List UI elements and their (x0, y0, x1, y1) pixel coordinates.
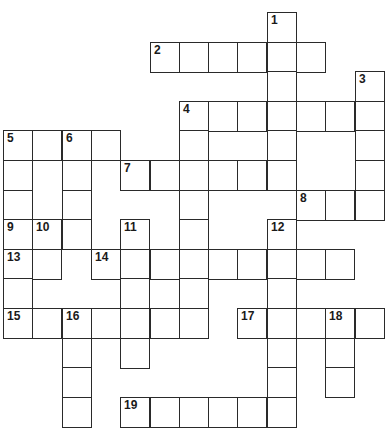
crossword-cell[interactable] (179, 219, 209, 250)
crossword-cell[interactable] (208, 249, 238, 280)
crossword-cell[interactable] (325, 338, 355, 369)
clue-number: 18 (329, 310, 342, 323)
crossword-cell-4[interactable]: 4 (179, 101, 209, 132)
crossword-cell-15[interactable]: 15 (3, 308, 33, 339)
crossword-cell[interactable] (120, 278, 150, 309)
crossword-cell[interactable] (325, 249, 355, 280)
crossword-cell-2[interactable]: 2 (150, 42, 180, 73)
crossword-cell[interactable] (32, 249, 62, 280)
crossword-cell[interactable] (62, 338, 92, 369)
clue-number: 7 (124, 162, 131, 175)
crossword-cell-9[interactable]: 9 (3, 219, 33, 250)
crossword-cell[interactable] (150, 249, 180, 280)
crossword-cell-5[interactable]: 5 (3, 130, 33, 161)
clue-number: 14 (95, 251, 108, 264)
crossword-cell[interactable] (355, 160, 385, 191)
crossword-cell-14[interactable]: 14 (91, 249, 121, 280)
clue-number: 4 (183, 103, 190, 116)
crossword-cell[interactable] (120, 338, 150, 369)
crossword-cell[interactable] (237, 101, 267, 132)
crossword-cell[interactable] (32, 130, 62, 161)
crossword-cell-19[interactable]: 19 (120, 397, 150, 428)
clue-number: 1 (271, 14, 278, 27)
crossword-cell[interactable] (237, 397, 267, 428)
crossword-cell-6[interactable]: 6 (62, 130, 92, 161)
clue-number: 6 (66, 132, 73, 145)
crossword-cell-8[interactable]: 8 (296, 190, 326, 221)
crossword-cell[interactable] (62, 219, 92, 250)
clue-number: 16 (66, 310, 79, 323)
crossword-cell[interactable] (62, 367, 92, 398)
crossword-cell[interactable] (237, 249, 267, 280)
crossword-cell[interactable] (91, 130, 121, 161)
crossword-cell[interactable] (3, 278, 33, 309)
clue-number: 13 (7, 251, 20, 264)
crossword-cell-11[interactable]: 11 (120, 219, 150, 250)
crossword-cell[interactable] (237, 42, 267, 73)
crossword-cell[interactable] (91, 308, 121, 339)
clue-number: 2 (154, 44, 161, 57)
crossword-cell[interactable] (179, 160, 209, 191)
crossword-cell[interactable] (296, 42, 326, 73)
crossword-cell[interactable] (62, 190, 92, 221)
clue-number: 9 (7, 221, 14, 234)
crossword-cell[interactable] (208, 160, 238, 191)
crossword-cell[interactable] (62, 397, 92, 428)
crossword-cell[interactable] (355, 130, 385, 161)
crossword-cell[interactable] (179, 130, 209, 161)
crossword-cell[interactable] (208, 397, 238, 428)
crossword-cell-17[interactable]: 17 (237, 308, 267, 339)
crossword-cell[interactable] (150, 160, 180, 191)
crossword-cell[interactable] (325, 367, 355, 398)
crossword-cell[interactable] (355, 190, 385, 221)
crossword-cell[interactable] (150, 397, 180, 428)
crossword-cell[interactable] (3, 160, 33, 191)
crossword-cell[interactable] (267, 71, 297, 102)
crossword-cell[interactable] (296, 101, 326, 132)
clue-number: 19 (124, 399, 137, 412)
crossword-cell[interactable] (208, 42, 238, 73)
crossword-cell[interactable] (179, 42, 209, 73)
crossword-cell[interactable] (355, 101, 385, 132)
crossword-cell[interactable] (179, 249, 209, 280)
crossword-cell[interactable] (267, 308, 297, 339)
crossword-cell[interactable] (179, 190, 209, 221)
crossword-cell[interactable] (267, 249, 297, 280)
crossword-cell[interactable] (267, 160, 297, 191)
crossword-cell-12[interactable]: 12 (267, 219, 297, 250)
crossword-cell[interactable] (267, 338, 297, 369)
crossword-cell-18[interactable]: 18 (325, 308, 355, 339)
crossword-cell[interactable] (296, 308, 326, 339)
clue-number: 11 (124, 221, 137, 234)
crossword-cell[interactable] (32, 308, 62, 339)
crossword-cell[interactable] (179, 278, 209, 309)
crossword-cell-10[interactable]: 10 (32, 219, 62, 250)
crossword-cell[interactable] (267, 101, 297, 132)
crossword-cell[interactable] (179, 308, 209, 339)
crossword-cell-16[interactable]: 16 (62, 308, 92, 339)
crossword-cell-3[interactable]: 3 (355, 71, 385, 102)
crossword-cell[interactable] (3, 190, 33, 221)
crossword-cell[interactable] (120, 308, 150, 339)
crossword-cell[interactable] (355, 308, 385, 339)
crossword-cell[interactable] (62, 160, 92, 191)
crossword-cell[interactable] (267, 367, 297, 398)
clue-number: 5 (7, 132, 14, 145)
crossword-cell[interactable] (296, 249, 326, 280)
crossword-cell[interactable] (237, 160, 267, 191)
crossword-cell[interactable] (120, 249, 150, 280)
crossword-cell[interactable] (325, 190, 355, 221)
crossword-cell[interactable] (267, 42, 297, 73)
crossword-cell-1[interactable]: 1 (267, 12, 297, 43)
crossword-cell[interactable] (179, 397, 209, 428)
clue-number: 10 (36, 221, 49, 234)
crossword-cell-7[interactable]: 7 (120, 160, 150, 191)
crossword-cell[interactable] (267, 278, 297, 309)
crossword-cell[interactable] (325, 101, 355, 132)
crossword-cell[interactable] (267, 397, 297, 428)
crossword-cell-13[interactable]: 13 (3, 249, 33, 280)
crossword-cell[interactable] (267, 130, 297, 161)
crossword-cell[interactable] (150, 308, 180, 339)
crossword-cell[interactable] (208, 101, 238, 132)
